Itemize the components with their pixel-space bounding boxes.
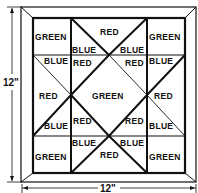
label-bottom-middle: RED [100, 150, 119, 160]
label-top-left: GREEN [35, 32, 67, 42]
label-left-blue-bottom: BLUE [44, 121, 68, 131]
patch-labels: GREEN GREEN GREEN GREEN GREEN RED RED RE… [35, 27, 181, 162]
label-top-right: GREEN [149, 32, 181, 42]
label-center-red-tr: RED [125, 58, 144, 68]
label-right-blue-top: BLUE [149, 56, 173, 66]
label-center: GREEN [92, 91, 124, 101]
height-dimension [7, 7, 22, 182]
height-label: 12" [3, 77, 19, 88]
label-top-middle: RED [100, 27, 119, 37]
label-right-blue-bottom: BLUE [149, 121, 173, 131]
label-top-blue-left: BLUE [72, 45, 96, 55]
label-center-red-bl: RED [73, 116, 92, 126]
label-right-middle: RED [154, 91, 173, 101]
quilt-diagram: GREEN GREEN GREEN GREEN GREEN RED RED RE… [0, 0, 198, 193]
label-bottom-blue-right: BLUE [120, 138, 144, 148]
width-label: 12" [100, 183, 116, 193]
label-bottom-left: GREEN [35, 152, 67, 162]
label-left-blue-top: BLUE [44, 56, 68, 66]
label-bottom-blue-left: BLUE [72, 138, 96, 148]
label-center-red-tl: RED [73, 58, 92, 68]
label-left-middle: RED [39, 91, 58, 101]
label-bottom-right: GREEN [149, 152, 181, 162]
label-top-blue-right: BLUE [120, 45, 144, 55]
label-center-red-br: RED [125, 116, 144, 126]
